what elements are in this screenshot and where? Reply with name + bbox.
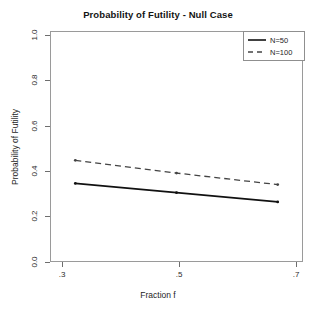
legend-line-solid-icon xyxy=(247,35,267,45)
y-tick-label: 1.0 xyxy=(24,25,44,45)
y-tick-label: 0.2 xyxy=(24,206,44,226)
y-tick-label: 0.8 xyxy=(24,70,44,90)
legend-label: N=100 xyxy=(270,48,292,57)
legend-item-n50: N=50 xyxy=(247,34,301,46)
legend: N=50 N=100 xyxy=(243,31,305,61)
plot-series-layer xyxy=(50,31,303,262)
x-tick-mark xyxy=(62,262,63,267)
y-tick-mark xyxy=(45,262,50,263)
x-tick-mark xyxy=(296,262,297,267)
data-point xyxy=(276,201,279,204)
x-tick-label: .3 xyxy=(59,270,66,279)
y-tick-label: 0.4 xyxy=(24,161,44,181)
data-point xyxy=(74,159,77,162)
x-tick-label: .5 xyxy=(176,270,183,279)
data-point xyxy=(74,182,77,185)
data-point xyxy=(175,172,178,175)
y-tick-label: 0.0 xyxy=(24,252,44,272)
data-point xyxy=(276,183,279,186)
legend-label: N=50 xyxy=(270,36,288,45)
legend-line-dashed-icon xyxy=(247,47,267,57)
page-title: Probability of Futility - Null Case xyxy=(0,9,316,20)
x-tick-mark xyxy=(179,262,180,267)
data-point xyxy=(175,191,178,194)
chart-page: Probability of Futility - Null Case 0.0 … xyxy=(0,0,316,314)
legend-item-n100: N=100 xyxy=(247,46,301,58)
x-tick-label: .7 xyxy=(293,270,300,279)
x-axis-title: Fraction f xyxy=(0,290,316,300)
y-tick-label: 0.6 xyxy=(24,116,44,136)
y-axis-title: Probability of Futility xyxy=(6,31,24,262)
